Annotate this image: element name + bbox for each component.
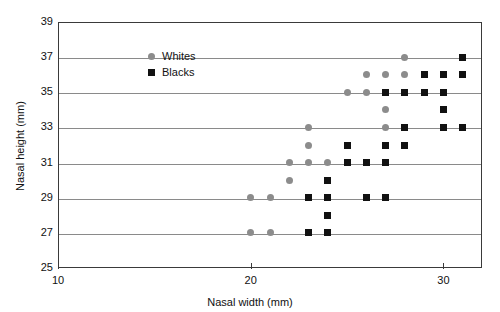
data-point-blacks bbox=[344, 142, 351, 149]
data-point-blacks bbox=[440, 106, 447, 113]
data-point-whites bbox=[286, 177, 293, 184]
data-point-whites bbox=[363, 89, 370, 96]
data-point-whites bbox=[382, 124, 389, 131]
data-point-blacks bbox=[401, 124, 408, 131]
x-tick-label-20: 20 bbox=[231, 275, 271, 286]
legend-label-blacks: Blacks bbox=[162, 67, 194, 78]
data-point-blacks bbox=[421, 89, 428, 96]
data-point-blacks bbox=[344, 159, 351, 166]
legend-label-whites: Whites bbox=[162, 51, 196, 62]
data-point-whites bbox=[305, 142, 312, 149]
data-point-blacks bbox=[382, 159, 389, 166]
y-tick-label-29: 29 bbox=[20, 192, 53, 203]
legend-item-whites: Whites bbox=[148, 48, 196, 64]
data-point-blacks bbox=[459, 54, 466, 61]
data-point-blacks bbox=[305, 229, 312, 236]
data-point-blacks bbox=[324, 212, 331, 219]
data-point-blacks bbox=[382, 142, 389, 149]
y-axis-title: Nasal height (mm) bbox=[14, 101, 26, 191]
y-tick-label-39: 39 bbox=[20, 16, 53, 27]
data-point-blacks bbox=[459, 124, 466, 131]
gridline-y-35 bbox=[59, 93, 481, 94]
data-point-whites bbox=[286, 159, 293, 166]
data-point-blacks bbox=[363, 159, 370, 166]
data-point-blacks bbox=[324, 194, 331, 201]
square-marker-icon bbox=[148, 69, 155, 76]
y-tick-label-27: 27 bbox=[20, 227, 53, 238]
x-tick-mark-30 bbox=[443, 263, 444, 269]
data-point-blacks bbox=[305, 194, 312, 201]
chart-legend: Whites Blacks bbox=[148, 48, 196, 80]
data-point-blacks bbox=[382, 89, 389, 96]
gridline-y-37 bbox=[59, 58, 481, 59]
data-point-blacks bbox=[382, 194, 389, 201]
gridline-y-33 bbox=[59, 128, 481, 129]
scatter-chart: 2527293133353739 102030 Whites Blacks Na… bbox=[0, 0, 500, 312]
legend-item-blacks: Blacks bbox=[148, 64, 196, 80]
x-tick-mark-10 bbox=[58, 263, 59, 269]
data-point-blacks bbox=[440, 124, 447, 131]
circle-marker-icon bbox=[148, 53, 155, 60]
data-point-whites bbox=[344, 89, 351, 96]
data-point-blacks bbox=[324, 177, 331, 184]
y-tick-label-37: 37 bbox=[20, 51, 53, 62]
x-tick-label-10: 10 bbox=[38, 275, 78, 286]
x-tick-mark-20 bbox=[251, 263, 252, 269]
data-point-blacks bbox=[421, 71, 428, 78]
data-point-blacks bbox=[440, 71, 447, 78]
data-point-blacks bbox=[440, 89, 447, 96]
data-point-whites bbox=[267, 194, 274, 201]
gridline-y-31 bbox=[59, 164, 481, 165]
data-point-blacks bbox=[324, 229, 331, 236]
data-point-whites bbox=[267, 229, 274, 236]
data-point-whites bbox=[305, 124, 312, 131]
x-tick-label-30: 30 bbox=[423, 275, 463, 286]
y-tick-label-25: 25 bbox=[20, 262, 53, 273]
data-point-blacks bbox=[401, 142, 408, 149]
y-tick-label-35: 35 bbox=[20, 86, 53, 97]
data-point-whites bbox=[363, 71, 370, 78]
x-axis-title: Nasal width (mm) bbox=[0, 296, 500, 308]
data-point-blacks bbox=[459, 71, 466, 78]
data-point-blacks bbox=[401, 89, 408, 96]
data-point-blacks bbox=[363, 194, 370, 201]
